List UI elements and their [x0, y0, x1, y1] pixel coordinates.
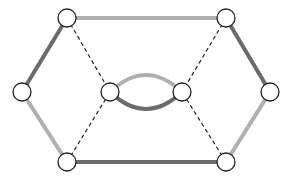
node-bottom-left: [58, 153, 76, 171]
node-inner-left: [101, 83, 119, 101]
dashed-edge-bottom-left: [67, 92, 110, 162]
node-left: [13, 83, 31, 101]
dashed-edge-bottom-right: [182, 92, 226, 162]
node-top-right: [217, 9, 235, 27]
edge-left-to-bottom-left: [22, 92, 67, 162]
edge-top-left-to-left: [22, 18, 67, 92]
node-top-left: [58, 9, 76, 27]
node-inner-right: [173, 83, 191, 101]
edge-right-to-bottom-right: [226, 92, 270, 162]
graph-diagram: [0, 0, 292, 183]
inner-edge-upper: [110, 75, 182, 92]
dashed-edge-top-left: [67, 18, 110, 92]
node-right: [261, 83, 279, 101]
node-bottom-right: [217, 153, 235, 171]
dashed-edge-top-right: [182, 18, 226, 92]
edge-top-right-to-right: [226, 18, 270, 92]
inner-edge-lower: [110, 92, 182, 109]
